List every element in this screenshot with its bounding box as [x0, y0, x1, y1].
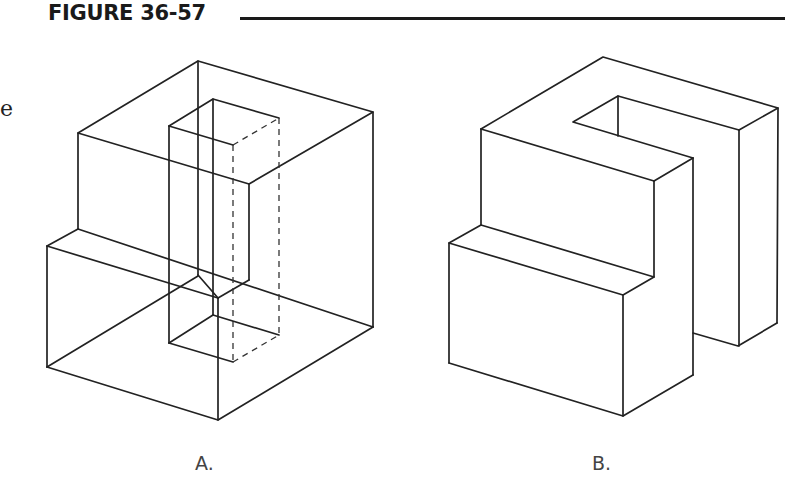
figure-a-drawing — [47, 61, 373, 420]
figure-b-drawing — [449, 57, 778, 416]
figure-canvas — [0, 0, 811, 479]
figure-a-label: A. — [195, 452, 214, 474]
figure-b-label: B. — [592, 452, 611, 474]
